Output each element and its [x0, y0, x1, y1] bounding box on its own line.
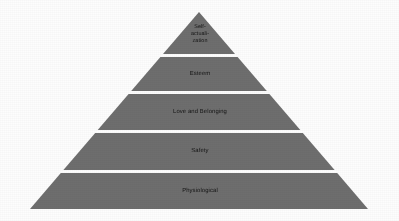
- pyramid-tier-safety: [63, 133, 334, 170]
- pyramid-tier-love-and-belonging: [98, 94, 301, 130]
- pyramid-tier-physiological: [30, 173, 368, 209]
- pyramid-shape-group: [0, 0, 399, 221]
- maslow-pyramid-diagram: Self- actuali- zation Esteem Love and Be…: [0, 0, 399, 221]
